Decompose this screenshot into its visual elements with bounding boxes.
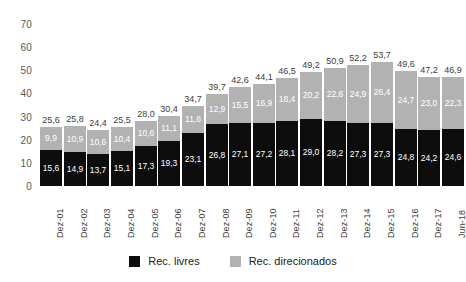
bar-segment-rec-direcionados[interactable]: 22,3	[442, 77, 464, 129]
bar-segment-rec-direcionados[interactable]: 20,2	[300, 72, 322, 119]
x-axis-tick: Dez-15	[371, 188, 393, 242]
bar-total-label: 30,4	[160, 104, 178, 114]
bar-column[interactable]: 27,216,9	[253, 84, 275, 186]
bar-column[interactable]: 23,111,6	[182, 106, 204, 186]
bar-total-label: 25,6	[42, 115, 60, 125]
x-axis-tick: Dez-08	[206, 188, 228, 242]
bar-segment-value: 28,1	[279, 149, 296, 158]
bar-column[interactable]: 28,118,4	[276, 78, 298, 186]
bar-column[interactable]: 27,115,5	[229, 87, 251, 186]
bar-segment-value: 27,2	[256, 150, 273, 159]
bar-segment-rec-direcionados[interactable]: 16,9	[253, 84, 275, 123]
x-axis-tick: Dez-07	[182, 188, 204, 242]
bar-segment-rec-direcionados[interactable]: 10,9	[64, 126, 86, 151]
bar-segment-rec-direcionados[interactable]: 11,6	[182, 106, 204, 133]
bar-segment-value: 27,1	[232, 150, 249, 159]
bar-segment-rec-livres[interactable]: 19,3	[158, 141, 180, 186]
bar-total-label: 25,5	[113, 115, 131, 125]
bar-segment-rec-direcionados[interactable]: 22,6	[324, 68, 346, 120]
bar-column[interactable]: 24,824,7	[395, 71, 417, 186]
bar-segment-rec-livres[interactable]: 27,1	[229, 123, 251, 186]
bar-segment-rec-livres[interactable]: 27,3	[347, 123, 369, 186]
bar-segment-rec-direcionados[interactable]: 24,9	[347, 65, 369, 123]
y-axis-tick: 50	[20, 65, 32, 76]
bar-segment-rec-livres[interactable]: 27,2	[253, 123, 275, 186]
x-axis-tick: Dez-14	[347, 188, 369, 242]
bar-segment-rec-direcionados[interactable]: 15,5	[229, 87, 251, 123]
bar-segment-value: 28,2	[327, 149, 344, 158]
bar-column[interactable]: 14,910,9	[64, 126, 86, 186]
bar-segment-value: 11,1	[161, 124, 177, 133]
y-axis: 010203040506070	[0, 0, 40, 282]
bar-segment-rec-livres[interactable]: 24,2	[418, 130, 440, 186]
bar-segment-rec-direcionados[interactable]: 10,6	[135, 121, 157, 146]
bar-segment-rec-direcionados[interactable]: 26,4	[371, 62, 393, 123]
bar-total-label: 53,7	[373, 50, 391, 60]
bar-total-label: 47,2	[420, 65, 438, 75]
bar-segment-rec-direcionados[interactable]: 9,9	[40, 127, 62, 150]
bar-segment-value: 20,2	[303, 91, 320, 100]
y-axis-tick: 0	[26, 181, 32, 192]
bar-column[interactable]: 24,622,3	[442, 77, 464, 186]
bar-segment-rec-direcionados[interactable]: 23,0	[418, 77, 440, 130]
bar-segment-rec-direcionados[interactable]: 11,1	[158, 116, 180, 142]
x-axis-tick: Dez-01	[40, 188, 62, 242]
bar-segment-rec-livres[interactable]: 28,1	[276, 121, 298, 186]
bar-total-label: 28,0	[137, 109, 155, 119]
bar-column[interactable]: 27,326,4	[371, 62, 393, 186]
bar-column[interactable]: 27,324,9	[347, 65, 369, 186]
bar-segment-value: 13,7	[90, 166, 107, 175]
bar-column[interactable]: 19,311,1	[158, 116, 180, 186]
bar-segment-value: 15,5	[232, 101, 249, 110]
bar-column[interactable]: 15,69,9	[40, 127, 62, 186]
bar-segment-rec-livres[interactable]: 26,8	[206, 124, 228, 186]
bar-segment-value: 15,6	[43, 164, 60, 173]
bar-segment-rec-direcionados[interactable]: 10,6	[87, 130, 109, 155]
bar-total-label: 44,1	[255, 72, 273, 82]
bar-total-label: 50,9	[326, 56, 344, 66]
bar-segment-value: 10,6	[138, 129, 155, 138]
bar-total-label: 42,6	[231, 75, 249, 85]
bar-segment-rec-livres[interactable]: 27,3	[371, 123, 393, 186]
bar-column[interactable]: 28,222,6	[324, 68, 346, 186]
bar-column[interactable]: 15,110,4	[111, 127, 133, 186]
bar-total-label: 25,8	[66, 114, 84, 124]
x-axis-tick: Dez-09	[229, 188, 251, 242]
bar-segment-rec-livres[interactable]: 29,0	[300, 119, 322, 186]
bar-segment-rec-livres[interactable]: 28,2	[324, 121, 346, 186]
legend-item[interactable]: Rec. direcionados	[230, 255, 337, 267]
bar-segment-value: 24,9	[350, 90, 367, 99]
bar-segment-rec-livres[interactable]: 15,1	[111, 151, 133, 186]
bar-segment-rec-direcionados[interactable]: 24,7	[395, 71, 417, 128]
bar-segment-rec-direcionados[interactable]: 18,4	[276, 78, 298, 121]
bar-segment-rec-direcionados[interactable]: 10,4	[111, 127, 133, 151]
bar-segment-rec-livres[interactable]: 15,6	[40, 150, 62, 186]
bar-segment-value: 22,6	[327, 90, 344, 99]
bar-segment-value: 26,8	[209, 151, 226, 160]
bar-segment-value: 29,0	[303, 148, 320, 157]
bar-segment-rec-livres[interactable]: 23,1	[182, 133, 204, 186]
bar-column[interactable]: 13,710,6	[87, 130, 109, 186]
bar-segment-rec-livres[interactable]: 13,7	[87, 154, 109, 186]
bar-column[interactable]: 29,020,2	[300, 72, 322, 186]
bar-segment-rec-livres[interactable]: 24,8	[395, 129, 417, 186]
x-axis: Dez-01Dez-02Dez-03Dez-04Dez-05Dez-06Dez-…	[40, 188, 464, 244]
x-axis-tick: Dez-16	[395, 188, 417, 242]
bar-column[interactable]: 24,223,0	[418, 77, 440, 186]
bar-segment-value: 24,6	[445, 153, 462, 162]
bar-segment-rec-livres[interactable]: 14,9	[64, 152, 86, 186]
bar-segment-rec-direcionados[interactable]: 12,9	[206, 94, 228, 124]
bar-segment-value: 27,3	[374, 150, 391, 159]
bar-segment-rec-livres[interactable]: 24,6	[442, 129, 464, 186]
bar-column[interactable]: 26,812,9	[206, 94, 228, 186]
x-axis-tick: Dez-03	[87, 188, 109, 242]
x-axis-tick: Dez-05	[135, 188, 157, 242]
bar-total-label: 46,9	[444, 65, 462, 75]
bar-column[interactable]: 17,310,6	[135, 121, 157, 186]
bar-segment-value: 22,3	[445, 99, 462, 108]
bar-segment-value: 27,3	[350, 150, 367, 159]
legend-item[interactable]: Rec. livres	[129, 255, 199, 267]
bar-segment-rec-livres[interactable]: 17,3	[135, 146, 157, 186]
x-axis-tick: Dez-10	[253, 188, 275, 242]
x-axis-tick: Dez-04	[111, 188, 133, 242]
